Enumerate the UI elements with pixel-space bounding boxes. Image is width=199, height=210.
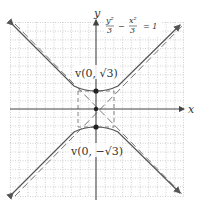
svg-text:3: 3 [130, 26, 135, 35]
vertex-top-label: v(0, √3) [74, 67, 118, 80]
svg-text:−: − [118, 22, 125, 31]
y-axis-label: y [93, 7, 101, 20]
svg-text:y²: y² [105, 16, 114, 25]
svg-text:= 1: = 1 [143, 22, 157, 31]
axes: x y [10, 7, 195, 200]
svg-text:3: 3 [107, 26, 112, 35]
vertex-bottom-label: v(0, −√3) [70, 145, 123, 158]
x-axis-label: x [188, 103, 195, 116]
asymptotes [15, 24, 184, 196]
equation-label: y² 3 − x² 3 = 1 [104, 15, 162, 37]
center-point [94, 107, 98, 111]
hyperbola-diagram: x y v(0, √3) v(0, −√3) y² 3 − x² 3 = 1 [0, 0, 199, 210]
svg-text:x²: x² [129, 16, 137, 25]
vertex-bottom-point [93, 124, 98, 129]
vertex-top-point [93, 88, 98, 93]
